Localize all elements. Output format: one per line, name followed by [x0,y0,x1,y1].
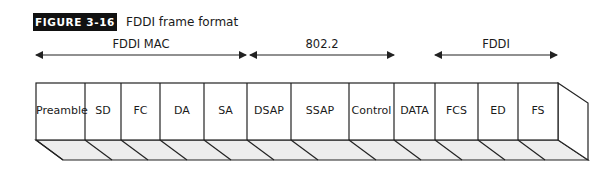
field-fs: FS [518,104,558,118]
frame-box [36,83,588,160]
field-fc: FC [121,104,160,118]
field-da: DA [160,104,204,118]
field-data: DATA [394,104,435,118]
field-ed: ED [478,104,518,118]
span-label: FDDI [446,37,546,51]
field-preamble: Preamble [36,104,85,118]
field-sd: SD [85,104,121,118]
field-sa: SA [204,104,247,118]
field-fcs: FCS [435,104,478,118]
field-control: Control [349,104,394,118]
frame-format-diagram [0,0,616,172]
field-ssap: SSAP [291,104,349,118]
span-label: 802.2 [272,37,372,51]
field-dsap: DSAP [247,104,291,118]
span-label: FDDI MAC [91,37,191,51]
